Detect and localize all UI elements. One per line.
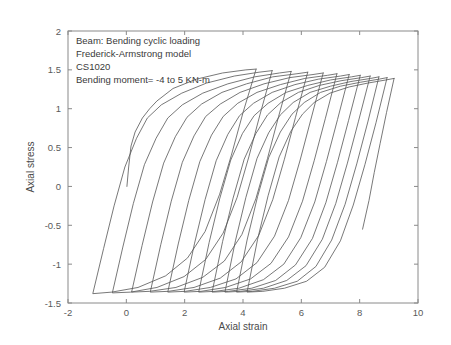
x-tick-label: -2: [64, 307, 72, 318]
hysteresis-plot: -20246810-1.5-1-0.500.511.52 Beam: Bendi…: [0, 0, 451, 345]
y-tick-label: 0: [56, 181, 61, 192]
x-tick-label: 4: [240, 307, 245, 318]
annotation-line2: Frederick-Armstrong model: [76, 48, 191, 59]
y-tick-label: -0.5: [45, 220, 61, 231]
x-tick-label: 10: [413, 307, 424, 318]
x-tick-label: 6: [299, 307, 304, 318]
y-tick-label: -1: [53, 259, 61, 270]
annotation-line3: CS1020: [76, 61, 110, 72]
annotation-line4: Bending moment= -4 to 5 KN-m: [76, 74, 210, 85]
figure-root: -20246810-1.5-1-0.500.511.52 Beam: Bendi…: [0, 0, 451, 345]
y-tick-label: 2: [56, 26, 61, 37]
x-tick-label: 8: [357, 307, 362, 318]
y-tick-label: 0.5: [48, 142, 61, 153]
y-tick-label: 1.5: [48, 64, 61, 75]
x-axis-title: Axial strain: [219, 321, 268, 332]
x-tick-label: 0: [124, 307, 129, 318]
y-axis-title: Axial stress: [25, 141, 36, 192]
annotation-line1: Beam: Bending cyclic loading: [76, 35, 200, 46]
y-tick-label: 1: [56, 103, 61, 114]
y-tick-label: -1.5: [45, 298, 61, 309]
x-tick-label: 2: [182, 307, 187, 318]
